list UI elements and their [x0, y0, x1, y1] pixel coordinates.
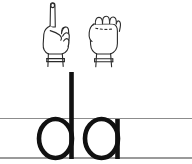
- letter-row: [0, 0, 192, 164]
- sign-language-letter-card: Sign language handshape for the letter d…: [0, 0, 192, 164]
- letter-d: [34, 66, 82, 162]
- letter-a: [80, 66, 128, 162]
